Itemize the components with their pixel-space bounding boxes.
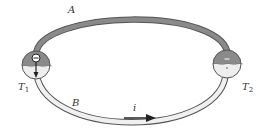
- thermocouple-diagram: A B T1 T2 i: [0, 0, 265, 137]
- wire-a: [36, 20, 228, 57]
- wire-b-label: B: [72, 98, 79, 108]
- junction-t1-label: T1: [18, 82, 29, 94]
- wire-b: [36, 68, 226, 122]
- junction-t2-label: T2: [242, 82, 253, 94]
- current-label: i: [133, 103, 136, 113]
- junction-t1: [20, 50, 52, 82]
- junction-t2: [211, 49, 243, 80]
- wire-a-label: A: [68, 5, 75, 15]
